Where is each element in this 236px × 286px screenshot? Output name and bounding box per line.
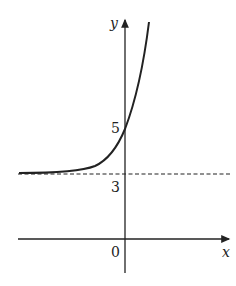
y-axis-label: y	[109, 15, 119, 31]
origin-label: 0	[111, 244, 120, 260]
chart-canvas: y x 0 5 3	[0, 0, 236, 286]
y-tick-label-3: 3	[111, 179, 120, 195]
exponential-curve	[19, 22, 149, 173]
y-tick-label-5: 5	[111, 120, 120, 136]
x-axis-label: x	[222, 244, 230, 260]
